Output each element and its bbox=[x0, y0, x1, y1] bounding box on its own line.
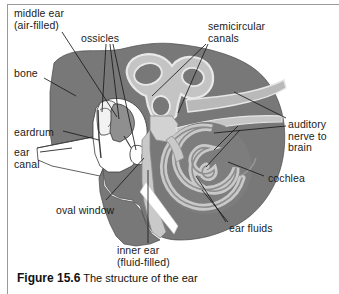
figure-number: Figure 15.6 bbox=[17, 271, 80, 285]
label-eardrum: eardrum bbox=[14, 127, 54, 139]
label-ear-canal: earcanal bbox=[14, 147, 40, 170]
label-inner-ear: inner ear(fluid-filled) bbox=[117, 245, 170, 268]
label-ossicles: ossicles bbox=[81, 33, 119, 45]
figure-caption-text: The structure of the ear bbox=[80, 272, 197, 284]
label-middle-ear: middle ear(air-filled) bbox=[14, 8, 64, 31]
label-cochlea: cochlea bbox=[268, 173, 305, 185]
label-auditory-nerve: auditorynerve tobrain bbox=[288, 119, 327, 154]
label-bone: bone bbox=[14, 68, 38, 80]
figure-caption: Figure 15.6 The structure of the ear bbox=[17, 272, 198, 285]
label-ear-fluids: ear fluids bbox=[229, 223, 273, 235]
label-semicircular-canals: semicircularcanals bbox=[208, 21, 265, 44]
figure-page: middle ear(air-filled) ossicles semicirc… bbox=[0, 0, 339, 294]
label-oval-window: oval window bbox=[56, 205, 114, 217]
